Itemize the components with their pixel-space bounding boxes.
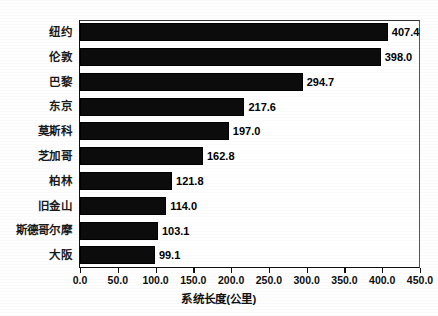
category-label: 柏林 [0, 169, 72, 193]
x-axis-tick [156, 268, 157, 273]
bar [80, 246, 155, 264]
bar-value-label: 103.1 [158, 222, 190, 240]
bar [80, 197, 166, 215]
category-label: 东京 [0, 94, 72, 118]
category-label: 纽约 [0, 20, 72, 44]
x-axis-tick [193, 268, 194, 273]
bar-value-label: 114.0 [166, 197, 197, 215]
x-axis-tick [382, 268, 383, 273]
category-label: 旧金山 [0, 194, 72, 218]
bar-value-label: 197.0 [229, 122, 261, 140]
bar-row: 大阪99.1 [0, 243, 438, 267]
bar-row: 巴黎294.7 [0, 70, 438, 94]
bar-chart: 纽约407.4伦敦398.0巴黎294.7东京217.6莫斯科197.0芝加哥1… [0, 0, 438, 316]
x-axis-tick-labels: 0.050.0100.0150.0200.0250.0300.0350.0400… [0, 274, 438, 290]
x-axis-tick [307, 268, 308, 273]
bar-row: 莫斯科197.0 [0, 119, 438, 143]
x-axis-tick [80, 268, 81, 273]
bar [80, 172, 172, 190]
bar-row: 芝加哥162.8 [0, 144, 438, 168]
x-axis-tick [118, 268, 119, 273]
bar-row: 东京217.6 [0, 94, 438, 118]
x-axis-tick [269, 268, 270, 273]
bar [80, 222, 158, 240]
bar-value-label: 407.4 [388, 23, 420, 41]
bar [80, 23, 388, 41]
bar [80, 73, 303, 91]
bar-value-label: 121.8 [172, 172, 204, 190]
x-axis-tick [344, 268, 345, 273]
category-label: 斯德哥尔摩 [0, 218, 72, 242]
bar-value-label: 398.0 [381, 48, 413, 66]
category-label: 大阪 [0, 243, 72, 267]
bar-row: 斯德哥尔摩103.1 [0, 218, 438, 242]
x-axis-tick [420, 268, 421, 273]
bar-value-label: 99.1 [155, 246, 180, 264]
bar [80, 147, 203, 165]
bar-value-label: 162.8 [203, 147, 235, 165]
category-label: 伦敦 [0, 45, 72, 69]
x-axis-title: 系统长度(公里) [0, 290, 438, 306]
bar-row: 旧金山114.0 [0, 194, 438, 218]
category-label: 莫斯科 [0, 119, 72, 143]
bar [80, 122, 229, 140]
x-axis-tick [231, 268, 232, 273]
x-axis-tick-label: 450.0 [394, 274, 438, 286]
category-label: 芝加哥 [0, 144, 72, 168]
bar-row: 伦敦398.0 [0, 45, 438, 69]
bar-value-label: 294.7 [303, 73, 335, 91]
bar-row: 柏林121.8 [0, 169, 438, 193]
bar-row: 纽约407.4 [0, 20, 438, 44]
bar-value-label: 217.6 [244, 98, 276, 116]
bar [80, 98, 244, 116]
bar [80, 48, 381, 66]
category-label: 巴黎 [0, 70, 72, 94]
